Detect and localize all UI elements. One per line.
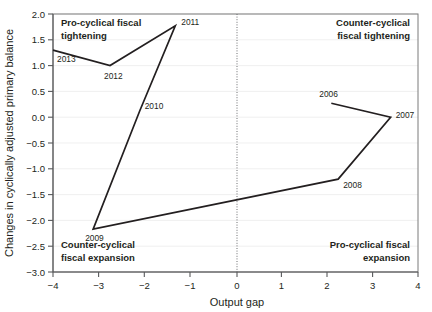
x-tick-label: 4 [415, 280, 420, 291]
y-tick-label: −3.0 [26, 267, 45, 278]
x-tick-label: 3 [370, 280, 375, 291]
x-tick-label: −1 [185, 280, 196, 291]
y-axis-ticks [48, 14, 53, 272]
data-point-label-2009: 2009 [85, 233, 104, 243]
y-axis-title: Changes in cyclically adjusted primary b… [3, 29, 15, 257]
y-tick-label: −1.5 [26, 189, 45, 200]
data-point-label-2013: 2013 [57, 54, 76, 64]
annotation-line: Counter-cyclical [336, 17, 410, 28]
y-tick-label: 0.0 [32, 112, 45, 123]
annotation-line: tightening [61, 30, 107, 41]
y-tick-label: 0.5 [32, 86, 45, 97]
data-point-label-2010: 2010 [145, 101, 164, 111]
data-point-label-2008: 2008 [343, 180, 362, 190]
x-tick-label: −3 [93, 280, 104, 291]
y-tick-label: −1.0 [26, 163, 45, 174]
x-tick-label: −2 [139, 280, 150, 291]
x-axis-ticks [53, 272, 418, 277]
x-axis-tick-labels: −4 −3 −2 −1 0 1 2 3 4 [48, 280, 421, 291]
y-tick-label: −0.5 [26, 138, 45, 149]
data-point-label-2011: 2011 [181, 17, 199, 27]
x-tick-label: 0 [234, 280, 239, 291]
data-point-label-2006: 2006 [319, 89, 338, 99]
annotation-line: fiscal tightening [337, 30, 410, 41]
data-point-label-2012: 2012 [104, 71, 123, 81]
y-axis-tick-labels: 2.0 1.5 1.0 0.5 0.0 −0.5 −1.0 −1.5 −2.0 … [26, 9, 45, 278]
y-tick-label: 1.0 [32, 60, 45, 71]
annotation-line: Pro-cyclical fiscal [330, 239, 410, 250]
chart-container: 2.0 1.5 1.0 0.5 0.0 −0.5 −1.0 −1.5 −2.0 … [0, 0, 432, 312]
y-tick-label: 2.0 [32, 9, 45, 20]
fiscal-stance-scatter-chart: 2.0 1.5 1.0 0.5 0.0 −0.5 −1.0 −1.5 −2.0 … [0, 0, 432, 312]
x-axis-title: Output gap [210, 296, 264, 308]
data-point-label-2007: 2007 [396, 110, 415, 120]
x-tick-label: −4 [48, 280, 59, 291]
x-tick-label: 1 [279, 280, 284, 291]
y-tick-label: −2.5 [26, 241, 45, 252]
annotation-line: expansion [363, 252, 410, 263]
annotation-line: fiscal expansion [61, 252, 135, 263]
x-tick-label: 2 [324, 280, 329, 291]
y-tick-label: −2.0 [26, 215, 45, 226]
y-tick-label: 1.5 [32, 34, 45, 45]
annotation-line: Pro-cyclical fiscal [61, 17, 141, 28]
